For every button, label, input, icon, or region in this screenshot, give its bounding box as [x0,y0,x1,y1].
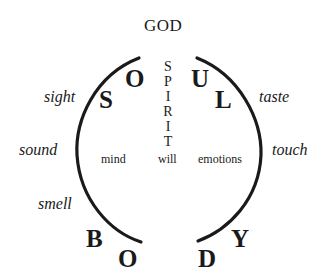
body-letter-o: O [118,246,137,271]
soul-letter-u: U [191,66,209,91]
faculty-emotions: emotions [198,153,242,165]
spirit-letter-i: I [161,90,175,104]
spirit-letter-i2: I [161,120,175,134]
sense-taste: taste [259,89,289,105]
spirit-letter-r: R [161,105,175,119]
soul-letter-s: S [99,87,113,112]
sense-sound: sound [19,142,57,158]
sense-smell: smell [38,196,72,212]
spirit-letter-t: T [161,135,175,149]
body-letter-y: Y [231,226,249,251]
body-letter-b: B [86,226,103,251]
sense-sight: sight [44,89,75,105]
god-label: GOD [144,17,182,34]
spirit-letter-s: S [161,60,175,74]
soul-letter-l: L [215,87,232,112]
faculty-mind: mind [101,153,126,165]
spirit-letter-p: P [161,75,175,89]
body-letter-d: D [198,246,216,271]
sense-touch: touch [272,142,308,158]
soul-letter-o: O [125,66,144,91]
soul-body-spirit-diagram: GOD S O U L B O D Y S P I R I T mind wil… [0,0,332,278]
faculty-will: will [158,153,177,165]
